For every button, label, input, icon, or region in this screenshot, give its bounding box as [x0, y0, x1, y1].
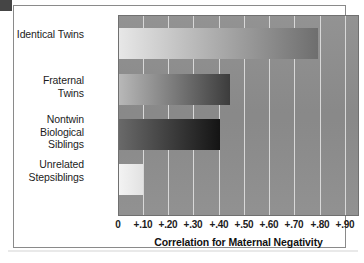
- bar-nontwin-biological-siblings: [118, 119, 220, 150]
- category-label-nontwin-biological-siblings: Nontwin Biological Siblings: [14, 113, 84, 151]
- gridline: [345, 15, 346, 216]
- x-tick-label: +.90: [328, 219, 362, 230]
- figure-root: Identical Twins Fraternal Twins Nontwin …: [0, 0, 364, 263]
- bar-fraternal-twins: [118, 74, 230, 105]
- category-label-unrelated-stepsiblings: Unrelated Stepsiblings: [29, 158, 84, 183]
- plot-area: [118, 15, 359, 216]
- x-axis-title: Correlation for Maternal Negativity: [118, 236, 359, 248]
- gridline: [320, 15, 321, 216]
- page-corner-mark: [0, 0, 12, 11]
- page-edge: [0, 250, 364, 263]
- bar-identical-twins: [118, 28, 318, 59]
- category-label-fraternal-twins: Fraternal Twins: [14, 74, 84, 99]
- bar-unrelated-stepsiblings: [118, 164, 143, 195]
- figure-frame: Identical Twins Fraternal Twins Nontwin …: [13, 5, 346, 248]
- category-label-identical-twins: Identical Twins: [17, 28, 84, 41]
